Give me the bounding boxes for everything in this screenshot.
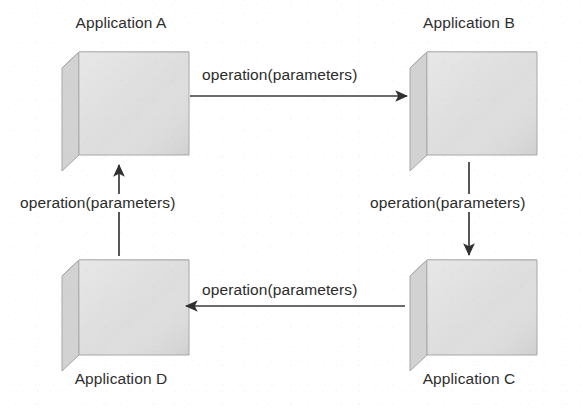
node-label-application-c: Application C [410, 370, 528, 388]
edge-label-a-to-b: operation(parameters) [199, 66, 360, 84]
cube-application-a [52, 40, 190, 172]
diagram-canvas: Application A Application B [0, 0, 583, 409]
edge-label-b-to-c: operation(parameters) [367, 194, 528, 212]
node-label-application-b: Application B [410, 14, 528, 32]
node-label-application-d: Application D [62, 370, 180, 388]
node-label-application-a: Application A [62, 14, 180, 32]
cube-application-d [52, 250, 190, 372]
edge-label-c-to-d: operation(parameters) [199, 281, 360, 299]
edge-label-d-to-a: operation(parameters) [17, 194, 178, 212]
cube-application-b [400, 40, 538, 172]
cube-application-c [400, 250, 538, 372]
